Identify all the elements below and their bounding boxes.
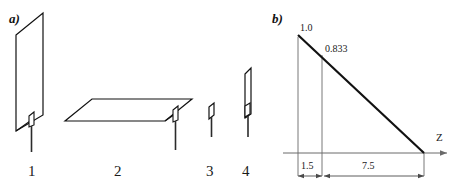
item-number-3: 3: [206, 163, 214, 179]
dimension-2-arrow-left: [324, 174, 330, 178]
item-3-group: 3: [206, 103, 214, 179]
peak-value-label: 1.0: [300, 22, 313, 33]
item-4-group: 4: [242, 68, 251, 179]
mid-value-label: 0.833: [325, 43, 348, 54]
item-number-2: 2: [114, 163, 122, 179]
panel-b-label: b): [272, 11, 283, 26]
vertical-plate-large-face: [16, 13, 43, 131]
sensor-probe-4: [245, 103, 250, 117]
panel-a-label: a): [9, 11, 20, 26]
dimension-2-label: 7.5: [362, 160, 375, 171]
dimension-1-label: 1.5: [301, 160, 314, 171]
item-number-1: 1: [28, 163, 36, 179]
item-2-group: 2: [65, 99, 192, 179]
small-plate-face: [209, 103, 214, 119]
x-axis-arrowhead: [440, 150, 447, 156]
x-axis-label: Z: [436, 131, 443, 143]
dimension-1-arrow-right: [316, 174, 322, 178]
item-number-4: 4: [242, 163, 250, 179]
dimension-2-arrow-right: [418, 174, 424, 178]
figure-canvas: a) 1 2 3 4: [0, 0, 457, 192]
dimension-1: 1.5: [298, 160, 322, 178]
response-curve: [298, 35, 424, 153]
dimension-1-arrow-left: [298, 174, 304, 178]
dimension-2: 7.5: [324, 160, 424, 178]
figure-root: a) 1 2 3 4: [0, 0, 457, 192]
item-1-group: 1: [16, 13, 43, 179]
